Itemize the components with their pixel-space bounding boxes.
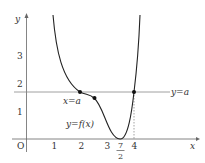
curve-label: y=f(x) — [65, 119, 95, 129]
function-graph: y x O 1 2 3 4 7 2 1 2 3 y=a x=a y=f(x) — [0, 0, 205, 163]
y-axis-label: y — [14, 14, 21, 24]
point-x-equals-a — [78, 90, 82, 94]
x-axis-arrow-icon — [196, 137, 200, 141]
x-tick-7-2-denominator: 2 — [118, 152, 123, 161]
y-tick-1: 1 — [17, 107, 23, 117]
point-inflection — [93, 96, 97, 100]
x-tick-7-2-numerator: 7 — [118, 141, 123, 150]
x-axis-label: x — [190, 141, 195, 151]
y-tick-3: 3 — [17, 51, 23, 61]
x-tick-1: 1 — [52, 141, 58, 151]
point-label-x-equals-a: x=a — [63, 96, 81, 106]
x-tick-3: 3 — [105, 141, 111, 151]
point-x4 — [132, 90, 136, 94]
y-tick-2: 2 — [17, 79, 23, 89]
x-tick-4: 4 — [132, 141, 138, 151]
origin-label: O — [17, 141, 24, 151]
x-tick-2: 2 — [79, 141, 85, 151]
y-axis-arrow-icon — [25, 13, 29, 18]
line-label-y-equals-a: y=a — [170, 87, 189, 97]
